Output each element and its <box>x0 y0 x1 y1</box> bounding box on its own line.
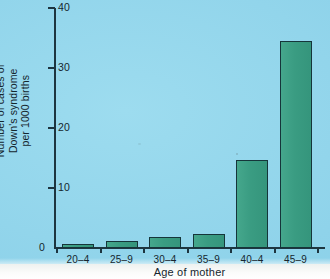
y-axis-title-line-1: Number of cases of <box>0 26 7 196</box>
y-axis-tick <box>48 67 55 69</box>
bar-35-9 <box>193 234 225 248</box>
x-axis-tick <box>274 249 276 253</box>
y-axis-tick-label: 0 <box>39 242 45 252</box>
x-axis-title: Age of mother <box>54 266 325 278</box>
bar-45-9 <box>280 41 312 248</box>
x-axis-tick <box>56 249 58 253</box>
plot-area: 010203040 20–425–930–435–940–445–9 Numbe… <box>0 0 330 264</box>
x-axis-tick <box>317 249 319 253</box>
y-axis-title-line-2: Down's syndrome <box>7 26 20 196</box>
y-axis-tick <box>48 127 55 129</box>
y-axis-tick <box>48 7 55 9</box>
y-axis-tick-label: 30 <box>58 62 70 72</box>
x-axis-tick <box>230 249 232 253</box>
y-axis-title: Number of cases of Down's syndrome per 1… <box>0 26 32 196</box>
x-axis-tick <box>100 249 102 253</box>
scan-speck <box>138 143 141 145</box>
x-axis-category-label: 45–9 <box>266 254 326 265</box>
y-axis-tick-label: 10 <box>58 182 70 192</box>
x-axis-tick <box>143 249 145 253</box>
x-axis-tick <box>187 249 189 253</box>
y-axis-tick-label: 20 <box>58 122 70 132</box>
y-axis-tick <box>48 187 55 189</box>
bar-25-9 <box>106 241 138 248</box>
bar-30-4 <box>149 237 181 248</box>
downs-syndrome-bar-chart-figure: 010203040 20–425–930–435–940–445–9 Numbe… <box>0 0 330 279</box>
y-axis-title-line-3: per 1000 births <box>19 26 32 196</box>
y-axis-tick-label: 40 <box>58 2 70 12</box>
bar-40-4 <box>236 160 268 248</box>
scan-speck <box>236 153 238 155</box>
bar-20-4 <box>62 244 94 248</box>
